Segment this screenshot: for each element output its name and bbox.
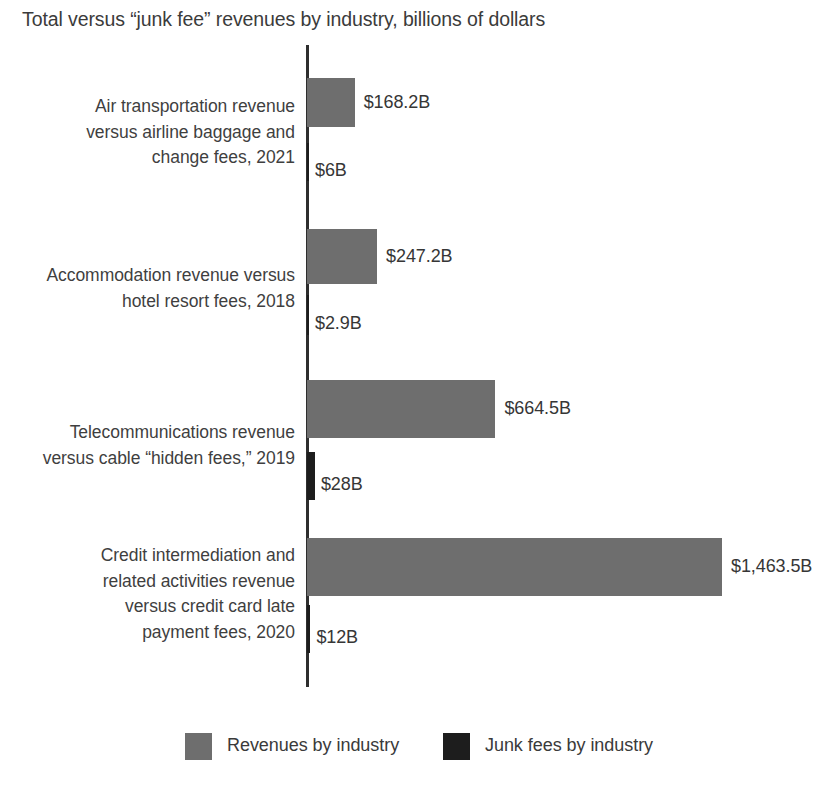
category-label-line: Credit intermediation and xyxy=(5,543,295,569)
plot-area: Air transportation revenueversus airline… xyxy=(0,0,833,700)
category-label-line: versus credit card late xyxy=(5,594,295,620)
bar-value-junk-fees: $6B xyxy=(315,160,347,181)
category-label-line: Accommodation revenue versus xyxy=(5,263,295,289)
legend-label-revenues: Revenues by industry xyxy=(227,735,399,756)
bar-junk-fees xyxy=(307,143,309,181)
chart-legend: Revenues by industry Junk fees by indust… xyxy=(0,733,833,767)
bar-value-revenues: $168.2B xyxy=(364,92,430,113)
bar-value-revenues: $1,463.5B xyxy=(731,556,812,577)
bar-revenues xyxy=(307,78,355,127)
legend-swatch-revenues-icon xyxy=(185,733,212,760)
category-label: Telecommunications revenueversus cable “… xyxy=(5,420,295,471)
bar-revenues xyxy=(307,380,495,438)
legend-label-junk-fees: Junk fees by industry xyxy=(485,735,653,756)
category-label-line: Air transportation revenue xyxy=(5,94,295,120)
category-label-line: payment fees, 2020 xyxy=(5,620,295,646)
category-label: Accommodation revenue versushotel resort… xyxy=(5,263,295,314)
bar-value-revenues: $664.5B xyxy=(504,398,570,419)
category-label-line: Telecommunications revenue xyxy=(5,420,295,446)
category-label: Air transportation revenueversus airline… xyxy=(5,94,295,171)
bar-value-junk-fees: $28B xyxy=(321,474,363,495)
category-label-line: hotel resort fees, 2018 xyxy=(5,289,295,315)
category-label-line: related activities revenue xyxy=(5,569,295,595)
bar-value-junk-fees: $12B xyxy=(316,627,358,648)
category-label-line: versus airline baggage and xyxy=(5,120,295,146)
legend-swatch-junk-fees-icon xyxy=(443,733,470,760)
chart-root: Total versus “junk fee” revenues by indu… xyxy=(0,0,833,790)
bar-value-junk-fees: $2.9B xyxy=(315,313,362,334)
category-label-line: change fees, 2021 xyxy=(5,145,295,171)
category-label-line: versus cable “hidden fees,” 2019 xyxy=(5,446,295,472)
category-label: Credit intermediation andrelated activit… xyxy=(5,543,295,645)
bar-revenues xyxy=(307,538,722,596)
bar-junk-fees xyxy=(307,295,309,335)
bar-junk-fees xyxy=(307,605,310,653)
bar-revenues xyxy=(307,229,377,284)
bar-value-revenues: $247.2B xyxy=(386,246,452,267)
bar-junk-fees xyxy=(307,452,315,500)
